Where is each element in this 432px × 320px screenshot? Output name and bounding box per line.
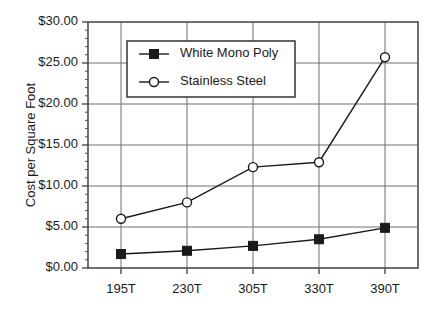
- y-tick-label: $30.00: [38, 13, 78, 28]
- data-point-marker: [183, 198, 192, 207]
- x-tick-label: 195T: [106, 281, 136, 296]
- data-point-marker: [249, 241, 258, 250]
- x-tick-label: 390T: [370, 281, 400, 296]
- data-point-marker: [315, 235, 324, 244]
- data-point-marker: [150, 50, 159, 59]
- y-tick-label: $5.00: [45, 218, 78, 233]
- data-point-marker: [249, 163, 258, 172]
- legend-label: Stainless Steel: [180, 73, 266, 88]
- data-point-marker: [150, 78, 159, 87]
- y-tick-label: $20.00: [38, 95, 78, 110]
- x-tick-label: 330T: [304, 281, 334, 296]
- data-point-marker: [381, 223, 390, 232]
- data-point-marker: [315, 158, 324, 167]
- y-tick-label: $0.00: [45, 259, 78, 274]
- x-tick-label: 230T: [172, 281, 202, 296]
- data-point-marker: [117, 250, 126, 259]
- chart-legend: White Mono PolyStainless Steel: [127, 41, 295, 97]
- y-tick-label: $25.00: [38, 54, 78, 69]
- data-point-marker: [117, 214, 126, 223]
- chart-figure: $0.00$5.00$10.00$15.00$20.00$25.00$30.00…: [0, 0, 432, 320]
- cost-per-square-foot-line-chart: $0.00$5.00$10.00$15.00$20.00$25.00$30.00…: [0, 0, 432, 320]
- x-tick-label: 305T: [238, 281, 268, 296]
- legend-label: White Mono Poly: [180, 45, 279, 60]
- y-axis-title: Cost per Square Foot: [23, 82, 38, 207]
- data-point-marker: [381, 53, 390, 62]
- y-tick-label: $10.00: [38, 177, 78, 192]
- y-tick-label: $15.00: [38, 136, 78, 151]
- data-point-marker: [183, 246, 192, 255]
